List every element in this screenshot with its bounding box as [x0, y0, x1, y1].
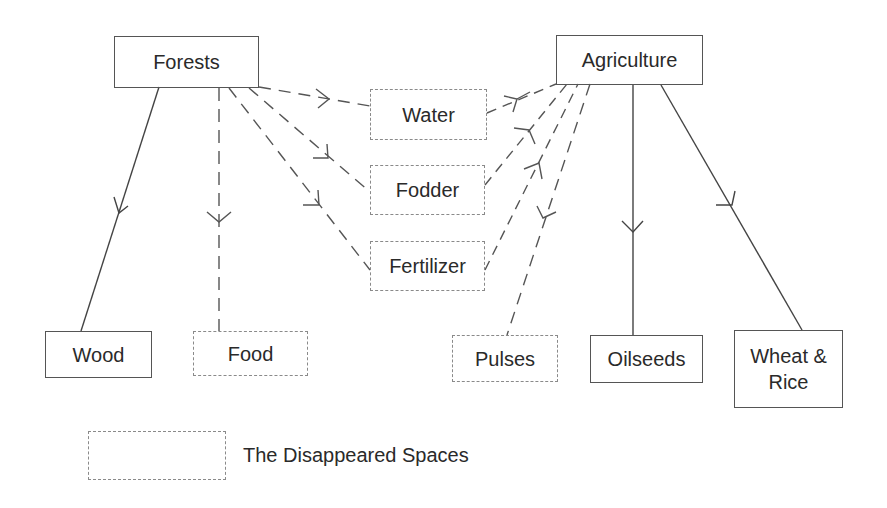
- node-label: Fertilizer: [389, 253, 466, 279]
- edge-agriculture-pulses: [507, 84, 590, 335]
- legend-dashed-box-icon: [88, 431, 226, 480]
- node-label-line2: Rice: [768, 369, 808, 395]
- arrow-icon: [303, 190, 319, 205]
- legend-label: The Disappeared Spaces: [243, 444, 469, 467]
- node-fodder: Fodder: [370, 165, 485, 215]
- edge-agriculture-wheat-rice: [661, 85, 802, 330]
- node-oilseeds: Oilseeds: [590, 335, 703, 383]
- node-fertilizer: Fertilizer: [370, 241, 485, 291]
- node-wheat-rice: Wheat & Rice: [734, 330, 843, 408]
- node-label: Fodder: [396, 177, 459, 203]
- arrow-icon: [537, 206, 556, 218]
- node-label: Food: [228, 341, 274, 367]
- node-label: Forests: [153, 49, 220, 75]
- arrow-icon: [524, 163, 542, 179]
- edge-forests-fodder: [249, 88, 370, 192]
- edge-water-agriculture: [487, 84, 556, 113]
- arrow-icon: [514, 128, 535, 144]
- node-forests: Forests: [114, 36, 259, 88]
- node-water: Water: [370, 89, 487, 140]
- node-agriculture: Agriculture: [556, 35, 703, 85]
- node-label: Agriculture: [582, 47, 678, 73]
- node-pulses: Pulses: [452, 335, 558, 382]
- edge-forests-fertilizer: [229, 88, 370, 270]
- node-label: Pulses: [475, 346, 535, 372]
- edge-agriculture-oilseeds: [622, 85, 643, 335]
- node-label: Oilseeds: [608, 346, 686, 372]
- arrow-icon: [313, 144, 328, 158]
- flow-diagram: Forests Agriculture Water Fodder Fertili…: [0, 0, 887, 508]
- edge-fertilizer-agriculture: [485, 84, 578, 270]
- node-label-line1: Wheat &: [750, 343, 827, 369]
- node-food: Food: [193, 331, 308, 376]
- arrow-icon: [504, 96, 517, 112]
- node-label: Wood: [73, 342, 125, 368]
- node-label: Water: [402, 102, 455, 128]
- edge-forests-wood: [81, 87, 159, 331]
- edge-fodder-agriculture: [485, 84, 567, 185]
- edge-forests-water: [259, 87, 370, 108]
- node-wood: Wood: [45, 331, 152, 378]
- edge-forests-food: [207, 88, 231, 331]
